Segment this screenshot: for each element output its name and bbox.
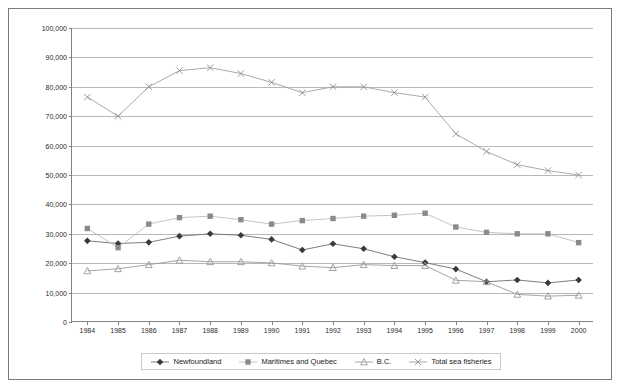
diamond-marker xyxy=(157,358,164,365)
legend-label: Maritimes and Quebec xyxy=(261,358,336,366)
diamond-marker xyxy=(150,357,170,367)
y-axis-tick-label: 0 xyxy=(63,319,67,326)
x-axis-tick-label: 1996 xyxy=(448,327,464,334)
x-axis-tick-label: 1991 xyxy=(294,327,310,334)
series-b-c xyxy=(84,257,582,299)
square-marker xyxy=(238,217,243,222)
diamond-marker xyxy=(268,236,275,243)
x-axis-tick-label: 1995 xyxy=(417,327,433,334)
y-axis-tick-label: 20,000 xyxy=(46,260,67,267)
diamond-marker xyxy=(391,253,398,260)
series-total-sea-fisheries xyxy=(84,64,582,178)
legend-item-maritimes-and-quebec[interactable]: Maritimes and Quebec xyxy=(238,357,336,367)
square-marker xyxy=(330,216,335,221)
y-axis-tick-label: 10,000 xyxy=(46,289,67,296)
x-axis-tick-label: 1986 xyxy=(141,327,157,334)
x-axis-tick-label: 1992 xyxy=(325,327,341,334)
diamond-marker xyxy=(360,245,367,252)
y-axis-tick-label: 60,000 xyxy=(46,142,67,149)
legend-label: Newfoundland xyxy=(173,358,221,366)
x-axis-tick-label: 1988 xyxy=(202,327,218,334)
square-marker xyxy=(269,221,274,226)
diamond-marker xyxy=(330,240,337,247)
cross-marker xyxy=(453,131,459,137)
y-axis-tick-label: 90,000 xyxy=(46,54,67,61)
square-marker xyxy=(545,231,550,236)
square-marker xyxy=(246,359,251,364)
cross-marker xyxy=(408,357,428,367)
x-axis-tick-label: 1997 xyxy=(479,327,495,334)
square-marker xyxy=(576,240,581,245)
square-marker xyxy=(115,245,120,250)
x-axis-tick-label: 1993 xyxy=(356,327,372,334)
plot-area: 010,00020,00030,00040,00050,00060,00070,… xyxy=(71,28,593,322)
x-axis-tick-label: 1987 xyxy=(172,327,188,334)
x-axis-tick-label: 1994 xyxy=(387,327,403,334)
diamond-marker xyxy=(145,239,152,246)
x-axis-tick-label: 1990 xyxy=(264,327,280,334)
y-axis-tick-label: 100,000 xyxy=(42,25,67,32)
y-axis-tick-label: 30,000 xyxy=(46,230,67,237)
legend-label: Total sea fisheries xyxy=(431,358,491,366)
legend-item-b-c[interactable]: B.C. xyxy=(354,357,392,367)
diamond-marker xyxy=(176,233,183,240)
y-axis-tick-label: 80,000 xyxy=(46,83,67,90)
square-marker xyxy=(85,226,90,231)
diamond-marker xyxy=(238,232,245,239)
x-axis-tick-label: 1998 xyxy=(509,327,525,334)
x-axis-tick-label: 1999 xyxy=(540,327,556,334)
square-marker xyxy=(207,213,212,218)
legend-item-newfoundland[interactable]: Newfoundland xyxy=(150,357,221,367)
x-axis-tick-label: 1984 xyxy=(80,327,96,334)
diamond-marker xyxy=(514,277,521,284)
square-marker xyxy=(484,230,489,235)
cross-marker xyxy=(84,94,90,100)
y-axis-tick-mark xyxy=(69,322,72,323)
square-marker xyxy=(392,213,397,218)
diamond-marker xyxy=(575,277,582,284)
square-marker xyxy=(300,218,305,223)
series-line xyxy=(87,260,578,296)
chart-frame: 010,00020,00030,00040,00050,00060,00070,… xyxy=(8,8,612,380)
chart-legend: NewfoundlandMaritimes and QuebecB.C.Tota… xyxy=(141,353,501,370)
square-marker xyxy=(146,221,151,226)
series-line xyxy=(87,68,578,175)
series-layer xyxy=(72,28,594,322)
y-axis-tick-label: 40,000 xyxy=(46,201,67,208)
x-axis-tick-label: 1989 xyxy=(233,327,249,334)
legend-label: B.C. xyxy=(377,358,392,366)
cross-marker xyxy=(115,113,121,119)
cross-marker xyxy=(268,79,274,85)
triangle-marker xyxy=(354,357,374,367)
square-marker xyxy=(515,231,520,236)
series-newfoundland xyxy=(84,231,582,287)
x-axis-tick-label: 2000 xyxy=(571,327,587,334)
plot-wrapper: 010,00020,00030,00040,00050,00060,00070,… xyxy=(71,28,593,322)
diamond-marker xyxy=(207,231,214,238)
x-axis-tick-label: 1985 xyxy=(110,327,126,334)
diamond-marker xyxy=(84,238,91,245)
diamond-marker xyxy=(299,247,306,254)
diamond-marker xyxy=(545,280,552,287)
y-axis-tick-label: 70,000 xyxy=(46,113,67,120)
square-marker xyxy=(177,215,182,220)
legend-item-total-sea-fisheries[interactable]: Total sea fisheries xyxy=(408,357,491,367)
square-marker xyxy=(453,224,458,229)
y-axis-tick-label: 50,000 xyxy=(46,172,67,179)
square-marker xyxy=(422,211,427,216)
square-marker xyxy=(238,357,258,367)
square-marker xyxy=(361,213,366,218)
cross-marker xyxy=(146,84,152,90)
cross-marker xyxy=(483,148,489,154)
diamond-marker xyxy=(453,266,460,273)
